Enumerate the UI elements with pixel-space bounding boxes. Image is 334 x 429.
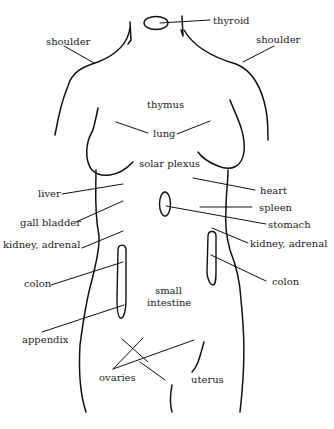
neck-right-line [181,16,183,36]
kidney-adrenal-right-leader [212,228,248,243]
label-spleen: spleen [259,202,293,213]
label-shoulder-right: shoulder [256,34,301,45]
stomach-leader [166,206,266,224]
label-heart: heart [260,185,287,196]
label-appendix: appendix [22,334,69,345]
right-hip-line [192,342,204,372]
kidney-adrenal-left-leader [82,231,123,248]
label-thymus: thymus [147,99,184,110]
label-thyroid: thyroid [213,15,250,26]
left-breast [87,108,133,175]
right-colon-shape [207,232,216,286]
shoulder-right-leader [243,46,274,62]
label-ovaries: ovaries [99,372,136,383]
right-breast [198,100,244,168]
label-colon-right: colon [272,276,300,287]
label-shoulder-left: shoulder [46,36,91,47]
labels: thyroid shoulder shoulder thymus lung so… [3,15,327,385]
colon-left-leader [51,262,123,285]
leader-lines [42,20,274,380]
uterus-left-leader [122,339,148,362]
right-shoulder-arm [184,30,268,140]
liver-leader [62,184,123,194]
label-uterus: uterus [191,374,224,385]
lung-left-leader [116,122,148,133]
label-kidney-adrenal-right: kidney, adrenal [250,238,327,249]
label-small-intestine-2: intestine [147,297,191,308]
shoulder-left-leader [64,46,94,63]
label-liver: liver [38,188,61,199]
lung-right-leader [177,121,210,134]
gall-bladder-leader [76,201,123,222]
label-colon-left: colon [24,278,52,289]
label-gall-bladder: gall bladder [20,217,81,228]
label-small-intestine-1: small [155,285,182,296]
left-leg-inner [171,385,173,412]
label-stomach: stomach [268,219,311,230]
label-lung: lung [153,128,176,139]
ovaries-right-leader [113,340,194,369]
label-solar-plexus: solar plexus [139,158,200,169]
body-organ-diagram: thyroid shoulder shoulder thymus lung so… [0,0,334,429]
left-torso-side [79,170,99,412]
heart-leader [193,178,255,190]
stomach-shape [160,192,171,216]
uterus-right-leader [140,362,165,380]
label-kidney-adrenal-left: kidney, adrenal [3,239,80,250]
right-torso-side [226,170,244,412]
